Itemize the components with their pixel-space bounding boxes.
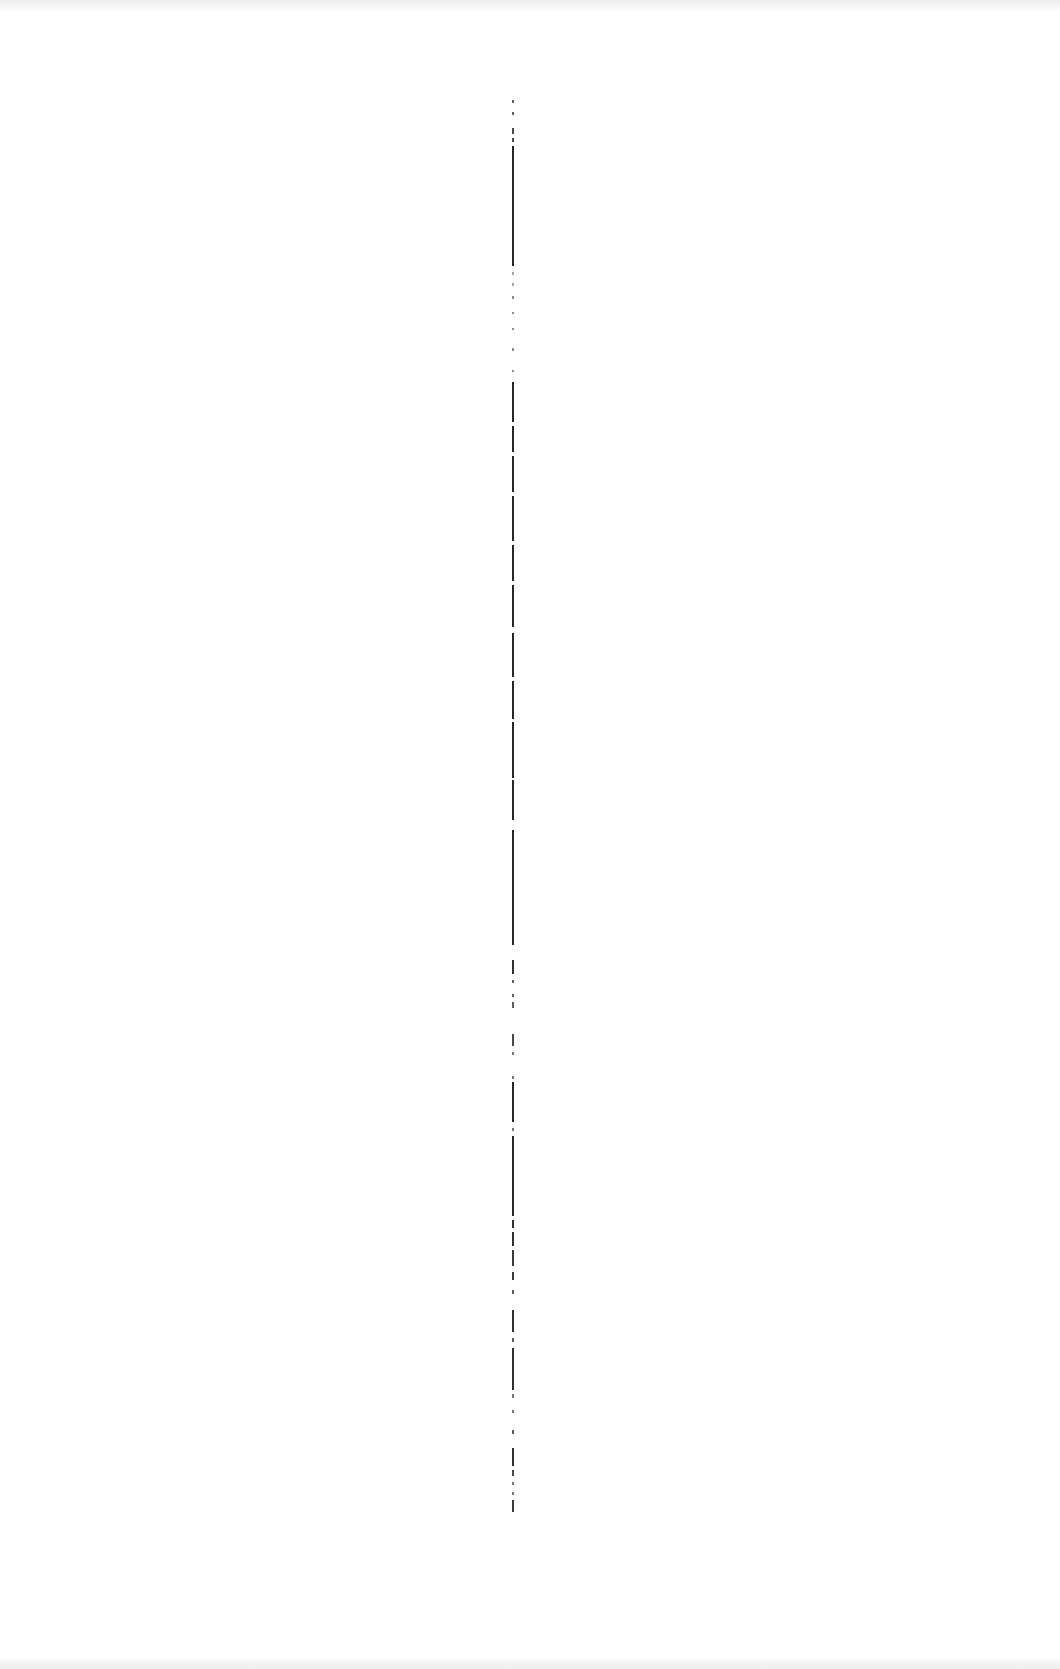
column-rule-segment xyxy=(512,994,514,997)
column-rule-segment xyxy=(512,1002,514,1008)
scan-edge-bottom xyxy=(0,1657,1060,1669)
column-rule-segment xyxy=(512,283,514,286)
column-rule-segment xyxy=(512,1220,514,1228)
column-rule-segment xyxy=(512,272,514,275)
column-rule-segment xyxy=(512,1076,514,1079)
scanned-page xyxy=(0,0,1060,1669)
column-rule-segment xyxy=(512,146,514,266)
column-rule-segment xyxy=(512,1492,514,1495)
column-rule-segment xyxy=(512,980,514,983)
column-rule-segment xyxy=(512,1448,514,1466)
column-rule-segment xyxy=(512,1394,514,1398)
column-rule-segment xyxy=(512,1500,514,1512)
column-rule-segment xyxy=(512,1232,514,1246)
column-rule-segment xyxy=(512,496,514,541)
column-rule-segment xyxy=(512,128,514,134)
column-rule-segment xyxy=(512,1082,514,1122)
column-rule-segment xyxy=(512,1430,514,1434)
column-rule-segment xyxy=(512,722,514,778)
column-rule-segment xyxy=(512,112,514,115)
column-rule-segment xyxy=(512,780,514,820)
column-rule-segment xyxy=(512,138,514,142)
column-rule-segment xyxy=(512,100,514,103)
column-rule-segment xyxy=(512,585,514,627)
column-rule-segment xyxy=(512,1482,514,1485)
column-rule-segment xyxy=(512,1290,514,1294)
column-rule-segment xyxy=(512,1410,514,1413)
column-rule-segment xyxy=(512,1348,514,1390)
column-rule-segment xyxy=(512,426,514,452)
column-rule-segment xyxy=(512,348,514,351)
column-rule-segment xyxy=(512,1136,514,1216)
column-rule-segment xyxy=(512,1470,514,1476)
column-rule-segment xyxy=(512,1310,514,1332)
column-rule-segment xyxy=(512,296,514,299)
column-rule-segment xyxy=(512,456,514,492)
column-rule-segment xyxy=(512,382,514,422)
column-rule-segment xyxy=(512,960,514,974)
column-divider-rule xyxy=(512,0,514,1669)
column-rule-segment xyxy=(512,1034,514,1046)
column-rule-segment xyxy=(512,312,514,314)
column-rule-segment xyxy=(512,1250,514,1266)
column-rule-segment xyxy=(512,830,514,945)
column-rule-segment xyxy=(512,1052,514,1055)
column-rule-segment xyxy=(512,370,514,372)
column-rule-segment xyxy=(512,1128,514,1131)
column-rule-segment xyxy=(512,1338,514,1342)
column-rule-segment xyxy=(512,545,514,581)
column-rule-segment xyxy=(512,681,514,719)
column-rule-segment xyxy=(512,328,514,330)
column-rule-segment xyxy=(512,1272,514,1280)
column-rule-segment xyxy=(512,633,514,677)
